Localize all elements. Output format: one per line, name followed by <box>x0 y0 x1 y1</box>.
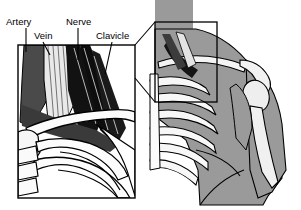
neck-silhouette-block <box>155 0 193 29</box>
anatomical-illustration: Artery Vein Nerve Clavicle <box>0 0 301 210</box>
label-artery: Artery <box>6 16 32 27</box>
label-clavicle: Clavicle <box>96 30 129 41</box>
magnified-neurovascular-view <box>18 45 135 198</box>
label-nerve: Nerve <box>66 16 91 27</box>
label-vein: Vein <box>34 30 53 41</box>
sternal-segments <box>18 146 38 196</box>
